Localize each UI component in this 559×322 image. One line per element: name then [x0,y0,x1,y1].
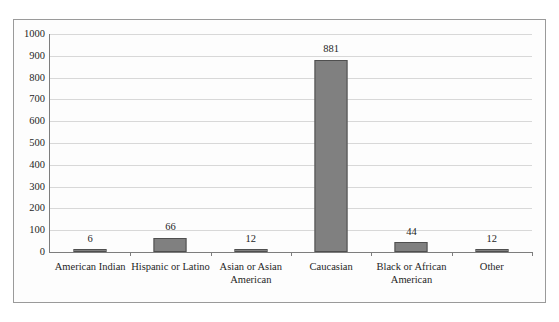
x-axis-tick [211,252,212,256]
x-axis-category-label: Other [440,261,544,274]
bars-group: 666128814412 [50,34,532,252]
bar-value-label: 881 [323,44,339,55]
bar[interactable] [475,249,508,252]
y-axis-tick-label: 500 [29,138,45,149]
bar[interactable] [395,242,428,252]
x-axis-tick [130,252,131,256]
y-axis-tick-label: 1000 [24,29,45,40]
bar-slot: 66 [130,34,210,252]
x-axis-tick [532,252,533,256]
y-axis-tick-label: 300 [29,181,45,192]
bar[interactable] [154,238,187,252]
x-axis-tick [452,252,453,256]
bar-slot: 881 [291,34,371,252]
bar-slot: 6 [50,34,130,252]
y-axis-tick-label: 200 [29,203,45,214]
category-label-line: American [199,274,303,287]
bar-value-label: 44 [406,227,417,238]
bar[interactable] [315,60,348,252]
y-axis-tick-label: 0 [40,247,45,258]
bar-slot: 44 [371,34,451,252]
bar-value-label: 66 [165,222,176,233]
bar[interactable] [74,249,107,252]
bar-value-label: 6 [88,234,93,245]
chart-figure-frame: 01002003004005006007008009001000 6661288… [13,19,546,303]
bar-slot: 12 [211,34,291,252]
x-axis-tick [371,252,372,256]
y-axis-tick-label: 100 [29,225,45,236]
y-axis-tick-label: 400 [29,160,45,171]
category-label-line: American [360,274,464,287]
bar-slot: 12 [452,34,532,252]
x-axis-tick [291,252,292,256]
chart-plot-area: 01002003004005006007008009001000 6661288… [49,34,532,253]
bar-value-label: 12 [246,234,257,245]
bar[interactable] [234,249,267,252]
bar-value-label: 12 [487,234,498,245]
y-axis-tick-label: 900 [29,51,45,62]
y-axis-tick-label: 700 [29,94,45,105]
category-label-line: Other [440,261,544,274]
y-axis-tick-label: 800 [29,72,45,83]
y-axis-tick-label: 600 [29,116,45,127]
